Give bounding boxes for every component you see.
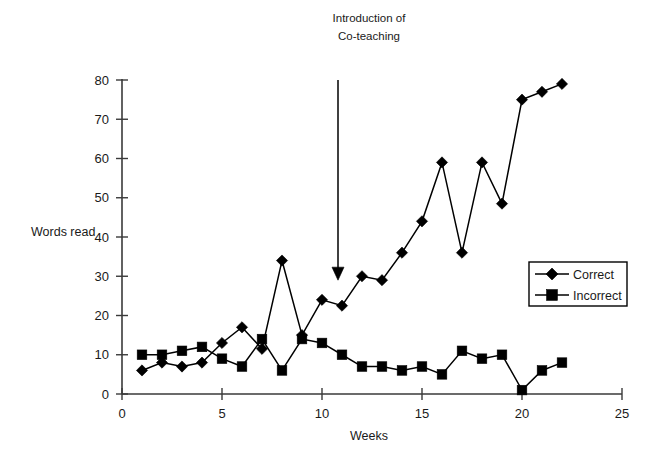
data-point-correct — [476, 157, 487, 168]
data-point-correct — [416, 216, 427, 227]
data-point-correct — [276, 255, 287, 266]
data-point-correct — [456, 247, 467, 258]
y-tick-label: 40 — [95, 230, 109, 245]
data-point-incorrect — [517, 385, 527, 395]
x-tick-label: 15 — [415, 406, 429, 421]
series-line-correct — [142, 84, 562, 371]
chart-legend: CorrectIncorrect — [529, 262, 627, 306]
line-chart: Introduction of Co-teaching 010203040506… — [0, 0, 653, 456]
series-correct — [136, 78, 567, 376]
data-point-correct — [556, 78, 567, 89]
y-tick-label: 70 — [95, 112, 109, 127]
x-tick-label: 25 — [615, 406, 629, 421]
annotation-text-line2: Co-teaching — [338, 30, 400, 42]
legend-entry-incorrect[interactable]: Incorrect — [535, 289, 622, 303]
data-point-incorrect — [417, 362, 427, 372]
data-point-incorrect — [557, 358, 567, 368]
data-point-incorrect — [457, 346, 467, 356]
data-point-incorrect — [477, 354, 487, 364]
data-point-incorrect — [317, 338, 327, 348]
data-point-incorrect — [437, 370, 447, 380]
data-point-incorrect — [157, 350, 167, 360]
data-point-incorrect — [137, 350, 147, 360]
data-point-correct — [436, 157, 447, 168]
data-point-correct — [176, 361, 187, 372]
data-point-correct — [336, 300, 347, 311]
data-point-correct — [316, 294, 327, 305]
y-tick-label: 80 — [95, 73, 109, 88]
data-point-correct — [496, 198, 507, 209]
y-axis-ticks: 01020304050607080 — [95, 73, 128, 402]
data-point-correct — [536, 86, 547, 97]
y-tick-label: 60 — [95, 151, 109, 166]
y-axis-title: Words read — [31, 225, 95, 239]
legend-label-incorrect: Incorrect — [573, 289, 622, 303]
data-point-correct — [376, 275, 387, 286]
data-point-incorrect — [297, 334, 307, 344]
chart-container: Introduction of Co-teaching 010203040506… — [0, 0, 653, 456]
data-point-incorrect — [177, 346, 187, 356]
y-tick-label: 20 — [95, 308, 109, 323]
x-tick-label: 0 — [118, 406, 125, 421]
annotation-text-line1: Introduction of — [333, 12, 407, 24]
data-point-incorrect — [497, 350, 507, 360]
x-tick-label: 20 — [515, 406, 529, 421]
data-point-correct — [516, 94, 527, 105]
plot-area — [136, 78, 567, 395]
data-point-incorrect — [217, 354, 227, 364]
data-point-correct — [396, 247, 407, 258]
data-point-incorrect — [397, 366, 407, 376]
annotation-layer: Introduction of Co-teaching — [332, 12, 406, 280]
data-point-correct — [356, 271, 367, 282]
y-tick-label: 0 — [102, 387, 109, 402]
legend-marker-square — [547, 290, 558, 301]
data-point-correct — [136, 365, 147, 376]
data-point-incorrect — [337, 350, 347, 360]
y-axis: 01020304050607080 Words read — [31, 73, 128, 402]
data-point-incorrect — [357, 362, 367, 372]
y-tick-label: 10 — [95, 347, 109, 362]
data-point-incorrect — [237, 362, 247, 372]
data-point-incorrect — [277, 366, 287, 376]
x-tick-label: 5 — [218, 406, 225, 421]
x-tick-label: 10 — [315, 406, 329, 421]
data-point-incorrect — [257, 334, 267, 344]
y-tick-label: 50 — [95, 190, 109, 205]
x-axis: 0510152025 Weeks — [118, 388, 629, 443]
data-point-incorrect — [537, 366, 547, 376]
data-point-incorrect — [197, 342, 207, 352]
data-point-incorrect — [377, 362, 387, 372]
annotation-arrow-head — [332, 267, 344, 280]
x-axis-title: Weeks — [350, 429, 388, 443]
x-axis-ticks: 0510152025 — [118, 388, 629, 421]
legend-label-correct: Correct — [573, 268, 615, 282]
y-tick-label: 30 — [95, 269, 109, 284]
